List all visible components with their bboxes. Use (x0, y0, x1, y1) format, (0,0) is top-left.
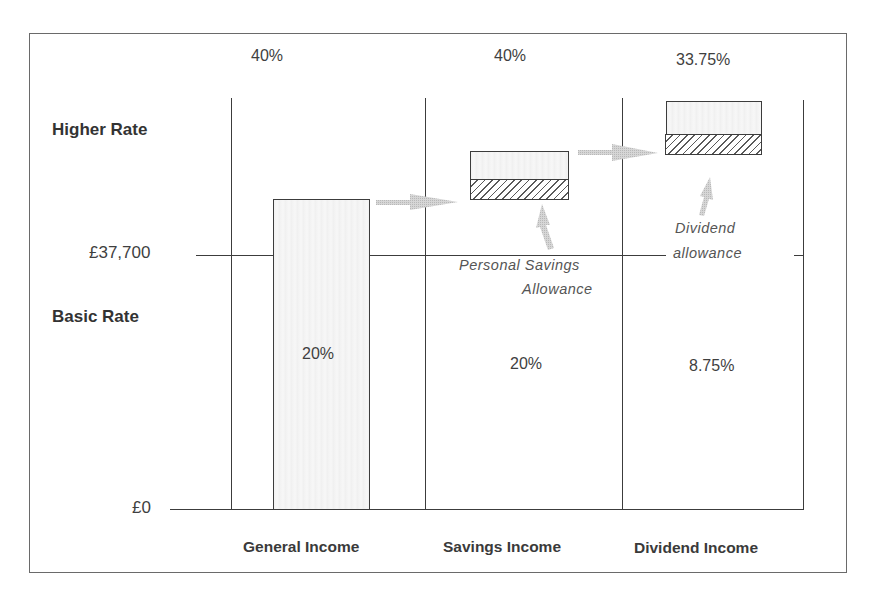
dividend-basic-rate: 8.75% (689, 357, 734, 375)
personal-savings-allowance-line1: Personal Savings (459, 257, 580, 273)
arrow-savings-to-dividend-icon (578, 144, 658, 161)
category-dividend-income: Dividend Income (634, 539, 758, 557)
dividend-allowance-line2: allowance (673, 245, 742, 261)
arrow-general-to-savings-icon (376, 194, 458, 210)
personal-savings-allowance-line2: Allowance (522, 281, 593, 297)
dividend-allowance-line1: Dividend (675, 220, 735, 236)
arrows-layer (0, 0, 889, 597)
savings-basic-rate: 20% (510, 355, 542, 373)
category-savings-income: Savings Income (443, 538, 561, 556)
arrow-up-dividend-allowance-icon (699, 177, 713, 216)
category-general-income: General Income (243, 538, 359, 556)
arrow-up-savings-allowance-icon (536, 204, 554, 250)
general-basic-rate: 20% (302, 345, 334, 363)
